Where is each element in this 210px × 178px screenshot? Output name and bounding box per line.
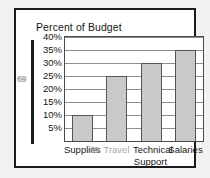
y-axis-tick-label: 10% — [43, 109, 62, 120]
scan-artifact-x-axis: 69 — [90, 145, 98, 155]
plot-area — [64, 36, 204, 142]
scan-artifact-y-axis: 69 — [17, 74, 26, 84]
y-axis-tick-label: 20% — [43, 83, 62, 94]
bar — [175, 50, 196, 141]
x-axis-tick-label: Travel — [99, 144, 134, 155]
y-axis-tick-label: 15% — [43, 96, 62, 107]
y-axis-tick-labels: 40%35%30%25%20%15%10%5% — [16, 36, 62, 142]
y-axis-tick-label: 25% — [43, 70, 62, 81]
x-axis-tick-label-line: Technical — [133, 144, 173, 155]
y-axis-tick-label: 30% — [43, 57, 62, 68]
x-axis-tick-label-line: Support — [133, 156, 168, 167]
x-axis-tick-labels: SuppliesTravelTechnicalSupportSalaries — [64, 144, 210, 174]
y-axis-tick-label: 35% — [43, 44, 62, 55]
bar — [141, 63, 162, 141]
bar — [106, 76, 127, 141]
bar — [72, 115, 93, 141]
y-axis-tick-label: 5% — [48, 122, 62, 133]
screenshot-page: Percent of Budget 40%35%30%25%20%15%10%5… — [0, 0, 210, 178]
x-axis-tick-label-line: Salaries — [168, 144, 202, 155]
x-axis-tick-label-line: Travel — [103, 144, 129, 155]
gridline — [65, 37, 203, 38]
y-axis-tick-label: 40% — [43, 31, 62, 42]
chart-figure-frame: Percent of Budget 40%35%30%25%20%15%10%5… — [14, 8, 196, 168]
x-axis-tick-label: Salaries — [168, 144, 203, 155]
x-axis-tick-label: TechnicalSupport — [133, 144, 168, 167]
